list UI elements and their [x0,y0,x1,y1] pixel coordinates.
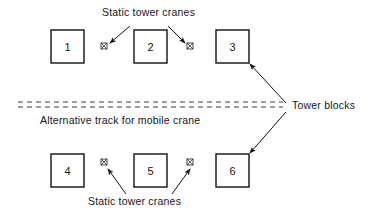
crane-top-left-icon [101,43,107,49]
diagram-canvas: 1 2 3 4 5 6 [0,0,371,221]
block-1[interactable]: 1 [51,30,84,63]
tower-blocks-label: Tower blocks [292,99,355,111]
block-2-label: 2 [147,41,153,53]
block-4[interactable]: 4 [51,154,84,187]
block-3[interactable]: 3 [216,30,249,63]
block-5-label: 5 [147,165,153,177]
leader-arrow-top-left [110,26,130,43]
block-5[interactable]: 5 [134,154,167,187]
crane-layout-diagram: 1 2 3 4 5 6 [0,0,371,221]
block-4-label: 4 [64,165,70,177]
block-6[interactable]: 6 [216,154,249,187]
block-6-label: 6 [229,165,235,177]
leader-arrow-bottom-right [172,169,190,194]
leader-arrow-tower-blocks-lower [250,112,286,153]
leader-arrow-tower-blocks-upper [250,64,286,103]
block-3-label: 3 [229,41,235,53]
block-2[interactable]: 2 [134,30,167,63]
leader-arrow-bottom-left [108,169,126,194]
static-tower-cranes-top-label: Static tower cranes [102,6,195,18]
static-tower-cranes-bottom-label: Static tower cranes [88,195,181,207]
crane-bottom-left-icon [101,159,107,165]
crane-top-right-icon [187,43,193,49]
leader-arrow-top-right [168,26,185,43]
block-1-label: 1 [64,41,70,53]
crane-bottom-right-icon [187,159,193,165]
alternative-track-label: Alternative track for mobile crane [40,114,200,126]
